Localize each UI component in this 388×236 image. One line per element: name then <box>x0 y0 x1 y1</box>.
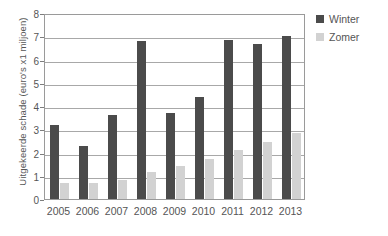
bar-winter-2013 <box>282 36 291 199</box>
bar-zomer-2013 <box>292 133 301 199</box>
y-tick-label: 2 <box>13 148 39 159</box>
legend-label: Zomer <box>329 31 359 43</box>
bar-winter-2005 <box>50 125 59 199</box>
bar-zomer-2010 <box>205 159 214 199</box>
legend-item-zomer: Zomer <box>316 31 359 43</box>
bar-winter-2010 <box>195 97 204 199</box>
bar-chart: Uitgekeerde schade (euro's x1 miljoen) 0… <box>0 0 388 236</box>
bar-zomer-2009 <box>176 166 185 199</box>
legend-label: Winter <box>329 13 359 25</box>
y-tick-mark <box>40 200 44 201</box>
gridline <box>45 62 304 63</box>
legend-swatch-winter-icon <box>316 15 324 23</box>
bar-winter-2008 <box>137 41 146 199</box>
legend: WinterZomer <box>316 13 359 49</box>
bar-winter-2011 <box>224 40 233 199</box>
x-tick-label: 2005 <box>47 205 70 217</box>
y-tick-label: 4 <box>13 102 39 113</box>
x-tick-label: 2012 <box>250 205 273 217</box>
y-tick-label: 8 <box>13 9 39 20</box>
y-tick-label: 1 <box>13 171 39 182</box>
plot-area <box>44 14 305 200</box>
legend-swatch-zomer-icon <box>316 33 324 41</box>
y-tick-label: 5 <box>13 78 39 89</box>
y-tick-label: 3 <box>13 125 39 136</box>
y-tick-label: 6 <box>13 55 39 66</box>
bar-zomer-2008 <box>147 172 156 199</box>
bar-zomer-2005 <box>60 183 69 199</box>
y-tick-label: 7 <box>13 32 39 43</box>
x-tick-label: 2009 <box>163 205 186 217</box>
bar-zomer-2011 <box>234 150 243 199</box>
x-tick-label: 2010 <box>192 205 215 217</box>
bar-winter-2012 <box>253 44 262 199</box>
y-tick-label: 0 <box>13 195 39 206</box>
bar-zomer-2006 <box>89 183 98 199</box>
legend-item-winter: Winter <box>316 13 359 25</box>
x-tick-label: 2011 <box>221 205 244 217</box>
x-tick-label: 2006 <box>76 205 99 217</box>
gridline <box>45 108 304 109</box>
x-tick-label: 2008 <box>134 205 157 217</box>
bar-winter-2007 <box>108 115 117 199</box>
bar-winter-2009 <box>166 113 175 199</box>
gridline <box>45 38 304 39</box>
bar-winter-2006 <box>79 146 88 199</box>
x-tick-label: 2007 <box>105 205 128 217</box>
gridline <box>45 85 304 86</box>
bar-zomer-2007 <box>118 180 127 199</box>
x-tick-label: 2013 <box>279 205 302 217</box>
bar-zomer-2012 <box>263 142 272 199</box>
